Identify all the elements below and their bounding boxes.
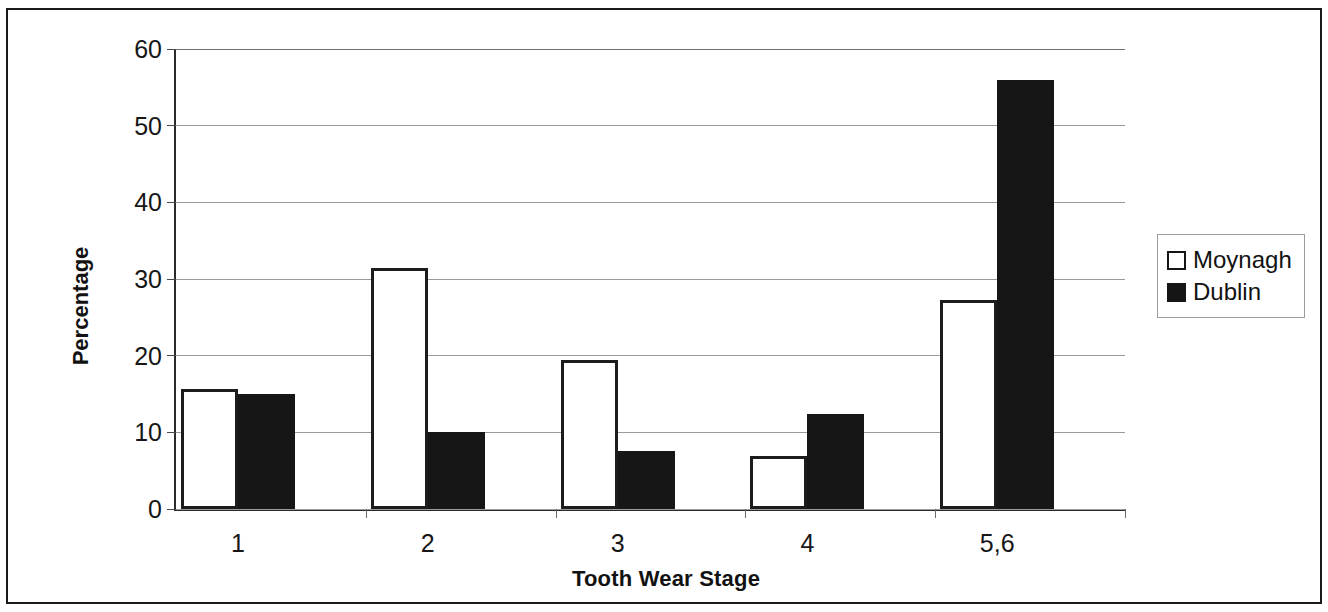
chart-legend: Moynagh Dublin <box>1157 234 1305 318</box>
legend-label: Moynagh <box>1193 248 1292 272</box>
y-axis-tick <box>167 432 176 433</box>
y-axis-tick <box>167 49 176 50</box>
y-axis-tick <box>167 279 176 280</box>
legend-swatch-hollow-square-icon <box>1167 251 1186 270</box>
bar-dublin-4 <box>807 414 864 509</box>
legend-item-moynagh: Moynagh <box>1167 244 1292 276</box>
bar-moynagh-4 <box>750 456 807 509</box>
y-axis-tick <box>167 125 176 126</box>
y-axis-tick <box>167 509 176 510</box>
y-axis-tick-label: 30 <box>134 267 162 292</box>
x-axis-tick-label: 2 <box>421 531 435 556</box>
gridline <box>176 202 1125 203</box>
bar-dublin-1 <box>238 394 295 509</box>
gridline <box>176 49 1125 50</box>
x-axis-tick <box>366 509 367 518</box>
plot-area: 010203040506012345,6 <box>174 49 1125 511</box>
legend-label: Dublin <box>1193 280 1261 304</box>
x-axis-title: Tooth Wear Stage <box>8 566 1324 592</box>
y-axis-tick <box>167 202 176 203</box>
x-axis-tick <box>935 509 936 518</box>
legend-swatch-solid-square-icon <box>1167 283 1186 302</box>
bar-dublin-2 <box>428 432 485 509</box>
legend-item-dublin: Dublin <box>1167 276 1292 308</box>
x-axis-tick-label: 5,6 <box>980 531 1015 556</box>
x-axis-tick <box>556 509 557 518</box>
chart-figure: Percentage 010203040506012345,6 Tooth We… <box>6 8 1322 604</box>
y-axis-tick-label: 60 <box>134 37 162 62</box>
gridline <box>176 125 1125 126</box>
y-axis-tick-label: 50 <box>134 113 162 138</box>
y-axis-title: Percentage <box>68 247 94 366</box>
bar-dublin-5-6 <box>997 80 1054 509</box>
y-axis-tick-label: 10 <box>134 420 162 445</box>
y-axis-tick-label: 40 <box>134 190 162 215</box>
y-axis-tick <box>167 355 176 356</box>
x-axis-tick-label: 1 <box>231 531 245 556</box>
bar-moynagh-3 <box>561 360 618 510</box>
y-axis-tick-label: 20 <box>134 343 162 368</box>
bar-moynagh-1 <box>181 389 238 509</box>
x-axis-tick <box>1125 509 1126 518</box>
gridline <box>176 279 1125 280</box>
x-axis-tick <box>745 509 746 518</box>
bar-moynagh-2 <box>371 268 428 509</box>
x-axis-tick-label: 3 <box>611 531 625 556</box>
y-axis-tick-label: 0 <box>148 497 162 522</box>
x-axis-tick-label: 4 <box>800 531 814 556</box>
bar-moynagh-5-6 <box>940 300 997 509</box>
bar-dublin-3 <box>618 451 675 509</box>
